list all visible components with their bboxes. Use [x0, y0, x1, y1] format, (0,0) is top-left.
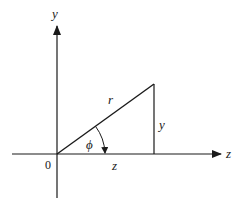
angle-arc	[96, 126, 106, 153]
adjacent-side-label: z	[111, 158, 117, 173]
vertical-axis-label: y	[50, 6, 58, 21]
opposite-side-label: y	[157, 117, 165, 132]
hypotenuse-label: r	[108, 92, 114, 107]
polar-coordinate-diagram: y z 0 r y z ϕ	[0, 0, 243, 205]
angle-label: ϕ	[86, 137, 93, 152]
horizontal-axis-label: z	[225, 146, 231, 161]
origin-label: 0	[45, 158, 51, 172]
hypotenuse-line	[57, 84, 154, 154]
